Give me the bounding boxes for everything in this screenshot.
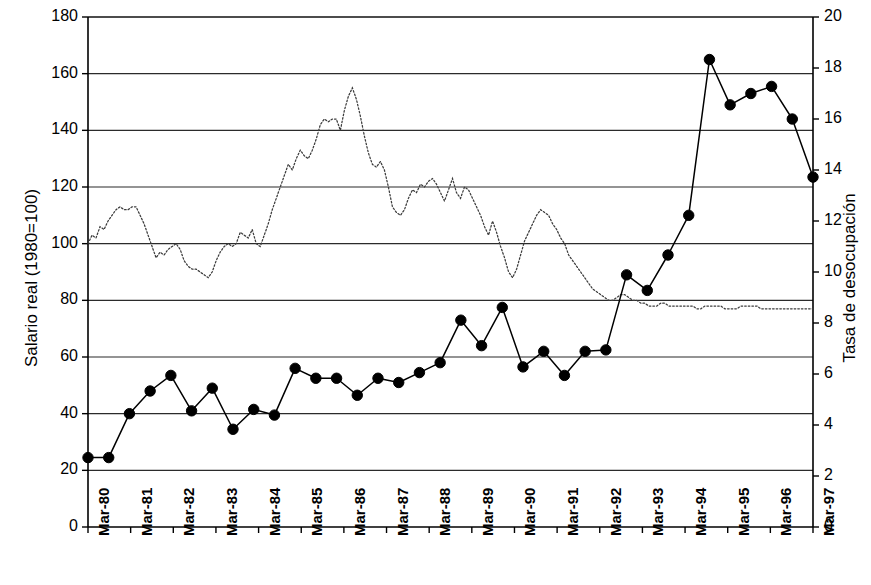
plot-area	[0, 0, 871, 585]
series-tasa-desocupacion-markers	[83, 54, 818, 462]
chart-container: Salario real (1980=100) Tasa de desocupa…	[0, 0, 871, 585]
series-salario-real	[88, 88, 813, 309]
gridlines	[88, 17, 813, 470]
left-axis-ticks	[82, 17, 88, 527]
right-axis-ticks	[813, 17, 819, 527]
series-tasa-desocupacion-line	[88, 60, 813, 458]
x-axis-ticks	[88, 527, 813, 533]
